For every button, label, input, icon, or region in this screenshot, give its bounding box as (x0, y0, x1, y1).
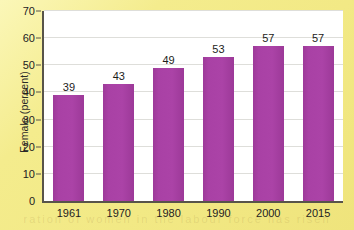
y-axis-tick-mark (36, 38, 41, 39)
bar-value-label: 57 (262, 32, 274, 44)
bar-chart-figure: ration of women in the labour force has … (0, 0, 354, 230)
y-axis-tick-mark (36, 119, 41, 120)
y-axis-tick-mark (36, 173, 41, 174)
bar-value-label: 39 (63, 81, 75, 93)
y-axis-tick-label: 30 (23, 114, 35, 126)
bar-series: 394349535757 (44, 11, 343, 201)
y-axis-tick-mark (36, 65, 41, 66)
x-axis-tick-label: 1990 (206, 207, 230, 219)
y-axis-tick-labels: 010203040506070 (0, 0, 42, 203)
x-axis-tick-labels: 196119701980199020002015 (44, 207, 343, 225)
y-axis-tick-mark (36, 146, 41, 147)
bar (153, 68, 184, 201)
x-axis-tick-label: 1970 (107, 207, 131, 219)
y-axis-tick-mark (36, 11, 41, 12)
x-axis-tick-label: 1980 (156, 207, 180, 219)
x-axis-tick-label: 2000 (256, 207, 280, 219)
bar-value-label: 49 (162, 54, 174, 66)
bar-value-label: 53 (212, 43, 224, 55)
y-axis-tick-label: 40 (23, 86, 35, 98)
y-axis-tick-label: 20 (23, 141, 35, 153)
y-axis-tick-label: 50 (23, 59, 35, 71)
bar (53, 95, 84, 201)
y-axis-tick-label: 60 (23, 32, 35, 44)
bar (253, 46, 284, 201)
y-axis-tick-label: 10 (23, 168, 35, 180)
y-axis-tick-mark (36, 92, 41, 93)
x-axis-tick-label: 2015 (306, 207, 330, 219)
bar (203, 57, 234, 201)
bar (303, 46, 334, 201)
bar-value-label: 57 (312, 32, 324, 44)
y-axis-tick-label: 70 (23, 5, 35, 17)
x-axis-tick-label: 1961 (57, 207, 81, 219)
y-axis-tick-label: 0 (29, 195, 35, 207)
bar (103, 84, 134, 201)
bar-value-label: 43 (113, 70, 125, 82)
